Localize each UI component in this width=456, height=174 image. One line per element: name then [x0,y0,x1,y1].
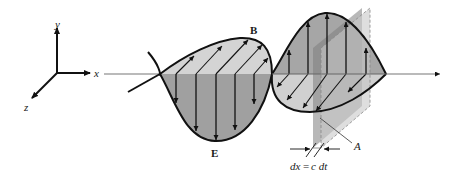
axes-triad: y x z [23,18,99,113]
thickness-equals: = [303,160,309,172]
z-axis-label: z [23,101,29,113]
y-axis-label: y [54,18,60,30]
e-field-label: E [211,147,218,159]
z-axis-arrow [32,73,57,98]
plane-a-label: A [353,140,361,152]
thickness-dimension [290,143,340,157]
dim-tick-left [306,143,316,157]
thickness-label-lhs: dx [290,160,301,172]
x-axis-label: x [93,67,99,79]
b-field-label: B [250,24,258,36]
b-curve-tail [128,74,160,92]
em-wave-diagram: y x z [0,0,456,174]
thickness-label-rhs: c dt [311,160,328,172]
